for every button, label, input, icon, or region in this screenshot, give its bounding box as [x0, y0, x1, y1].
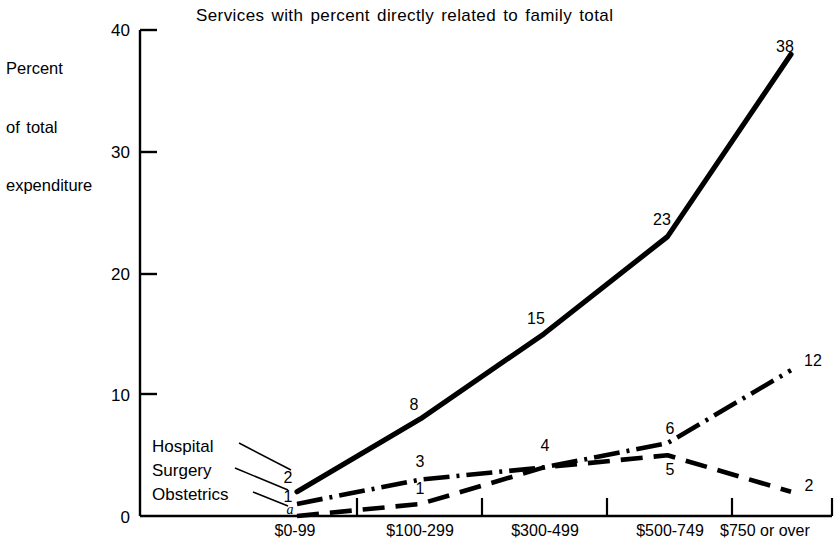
data-label-hospital-3: 23	[649, 211, 675, 229]
chart-title: Services with percent directly related t…	[196, 6, 613, 26]
data-label-surgery-4: 12	[800, 352, 826, 370]
data-label-obstetrics-3: 5	[661, 461, 679, 479]
y-tick-label-10: 10	[96, 386, 130, 406]
data-label-hospital-4: 38	[772, 38, 798, 56]
y-tick-label-40: 40	[96, 21, 130, 41]
data-label-obstetrics-4: 2	[800, 477, 818, 495]
data-label-hospital-1: 8	[405, 396, 423, 414]
data-label-surgery-1: 3	[411, 453, 429, 471]
data-label-surgery-2: 4	[536, 437, 554, 455]
x-tick-label-3: $500-749	[610, 522, 730, 540]
series-line-hospital	[297, 54, 791, 491]
y-axis-title-line-3: expenditure	[6, 176, 92, 196]
series-line-obstetrics	[297, 455, 791, 516]
series-label-hospital: Hospital	[152, 437, 213, 457]
y-axis-title-line-2: of total	[6, 118, 92, 138]
x-tick-label-4: $750 or over	[720, 522, 835, 540]
y-tick-label-20: 20	[96, 265, 130, 285]
chart-figure: Services with percent directly related t…	[0, 0, 835, 548]
data-label-obstetrics-0-footnote: a	[283, 502, 297, 518]
data-label-obstetrics-1: 1	[411, 480, 429, 498]
data-label-hospital-2: 15	[524, 310, 548, 328]
x-tick-label-2: $300-499	[485, 522, 605, 540]
series-label-obstetrics: Obstetrics	[152, 485, 229, 505]
y-axis-title-line-1: Percent	[6, 59, 92, 79]
y-tick-label-0: 0	[96, 508, 130, 528]
leader-line-hospital	[239, 443, 291, 470]
x-tick-label-1: $100-299	[360, 522, 480, 540]
data-label-hospital-0: 2	[279, 469, 297, 487]
y-axis-title: Percent of total expenditure	[6, 20, 92, 235]
data-label-surgery-3: 6	[661, 420, 679, 438]
series-label-surgery: Surgery	[152, 461, 212, 481]
x-tick-label-0: $0-99	[235, 522, 355, 540]
y-tick-label-30: 30	[96, 143, 130, 163]
